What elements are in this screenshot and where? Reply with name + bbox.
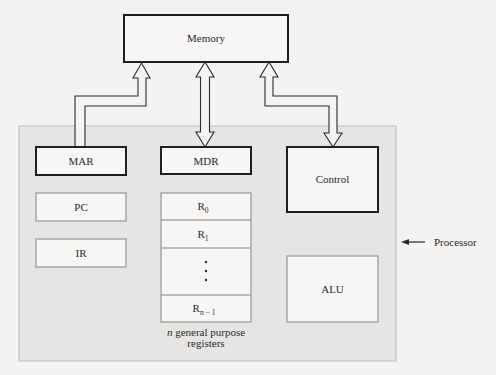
register-file-caption-line2: registers <box>187 337 224 349</box>
mar-label: MAR <box>68 155 94 167</box>
memory-label: Memory <box>187 32 225 44</box>
control-label: Control <box>316 173 350 185</box>
mdr-memory-bus-arrow <box>196 62 214 147</box>
control-unit: Control <box>287 147 378 212</box>
ir-label: IR <box>76 247 88 259</box>
pc-label: PC <box>74 201 87 213</box>
mar-register: MAR <box>36 147 126 175</box>
diagram-canvas: Memory MAR MDR Control PC IR R0 R1 <box>0 0 496 375</box>
alu-label: ALU <box>321 283 344 295</box>
register-file: R0 R1 Rn − 1 <box>161 193 251 322</box>
pc-register: PC <box>36 193 126 221</box>
mdr-label: MDR <box>193 155 219 167</box>
ir-register: IR <box>36 239 126 267</box>
alu-unit: ALU <box>287 256 378 322</box>
memory-box: Memory <box>124 15 288 62</box>
mdr-register: MDR <box>161 147 251 174</box>
processor-callout: Processor <box>401 236 477 248</box>
arrow-left-head-icon <box>401 239 409 245</box>
processor-label: Processor <box>434 236 477 248</box>
